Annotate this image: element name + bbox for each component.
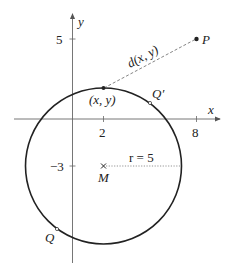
point-Q-prime — [148, 101, 151, 104]
x-tick-label-2: 2 — [99, 125, 106, 140]
diagram-canvas: x y 2 8 5 −3 r = 5 M d(x, y) P (x, y) Q′… — [0, 0, 230, 273]
point-xy — [102, 86, 106, 90]
point-Q — [55, 227, 58, 230]
point-Q-prime-label: Q′ — [152, 86, 164, 101]
point-xy-label: (x, y) — [89, 92, 116, 107]
y-tick-label-neg3: −3 — [50, 159, 64, 174]
y-tick-label-5: 5 — [56, 32, 63, 47]
center-marker-icon — [101, 164, 106, 169]
point-P — [194, 37, 198, 41]
x-tick-label-8: 8 — [192, 125, 199, 140]
distance-label: d(x, y) — [124, 42, 160, 71]
x-axis-label: x — [207, 102, 214, 117]
point-Q-label: Q — [45, 230, 55, 245]
y-axis-label: y — [76, 14, 84, 29]
center-label: M — [97, 170, 110, 185]
point-P-label: P — [201, 32, 210, 47]
radius-label: r = 5 — [129, 150, 154, 165]
